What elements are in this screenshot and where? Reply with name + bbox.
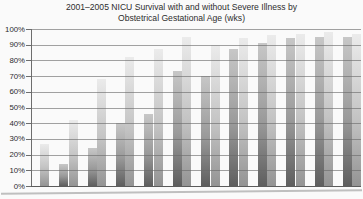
chart-title: 2001–2005 NICU Survival with and without…	[0, 2, 363, 24]
y-axis-label-70%: 70%	[9, 72, 25, 81]
y-axis-label-60%: 60%	[9, 87, 25, 96]
bar-dark-cluster-5	[144, 114, 153, 186]
slide-shadow-decoration	[1, 189, 362, 194]
gridline-80%	[31, 60, 361, 61]
y-axis-tick	[26, 108, 31, 109]
bar-light-cluster-7	[211, 45, 220, 186]
y-axis-labels: 100%90%80%70%60%50%40%30%20%10%0%	[0, 29, 28, 186]
y-axis-label-100%: 100%	[5, 25, 25, 34]
bar-light-cluster-9	[267, 35, 276, 186]
gridline-20%	[31, 155, 361, 156]
y-axis-tick	[26, 123, 31, 124]
y-axis-tick	[26, 155, 31, 156]
y-axis-label-0%: 0%	[14, 182, 25, 191]
gridline-40%	[31, 123, 361, 124]
gridline-60%	[31, 92, 361, 93]
slide: 2001–2005 NICU Survival with and without…	[0, 0, 363, 199]
gridline-10%	[31, 170, 361, 171]
y-axis-label-10%: 10%	[9, 166, 25, 175]
gridline-30%	[31, 139, 361, 140]
y-axis-label-90%: 90%	[9, 40, 25, 49]
gridline-50%	[31, 108, 361, 109]
bar-chart-plot-area	[31, 29, 361, 186]
bar-light-cluster-10	[296, 34, 305, 186]
gridline-90%	[31, 45, 361, 46]
y-axis-tick	[26, 29, 31, 30]
y-axis-tick	[26, 45, 31, 46]
bar-dark-cluster-9	[258, 43, 267, 186]
y-axis-tick	[26, 186, 31, 187]
bar-light-cluster-12	[352, 34, 361, 186]
y-axis-tick	[26, 92, 31, 93]
bar-dark-cluster-11	[315, 37, 324, 186]
bar-dark-cluster-12	[343, 37, 352, 186]
bar-light-cluster-1	[40, 144, 49, 186]
y-axis-tick	[26, 139, 31, 140]
chart-title-line1: 2001–2005 NICU Survival with and without…	[0, 2, 363, 13]
chart-title-line2: Obstetrical Gestational Age (wks)	[0, 13, 363, 24]
y-axis-tick	[26, 76, 31, 77]
bar-dark-cluster-2	[59, 164, 68, 186]
bar-light-cluster-6	[182, 37, 191, 186]
gridline-70%	[31, 76, 361, 77]
y-axis-label-40%: 40%	[9, 119, 25, 128]
bar-dark-cluster-6	[173, 71, 182, 186]
bar-dark-cluster-8	[229, 49, 238, 186]
gridline-0%	[31, 186, 361, 187]
y-axis-label-80%: 80%	[9, 56, 25, 65]
bar-light-cluster-5	[154, 49, 163, 186]
y-axis-label-20%: 20%	[9, 150, 25, 159]
bar-light-cluster-11	[324, 32, 333, 186]
y-axis-tick	[26, 60, 31, 61]
y-axis-label-50%: 50%	[9, 103, 25, 112]
bar-light-cluster-2	[69, 120, 78, 186]
gridline-100%	[31, 29, 361, 30]
y-axis-tick	[26, 170, 31, 171]
y-axis-label-30%: 30%	[9, 134, 25, 143]
